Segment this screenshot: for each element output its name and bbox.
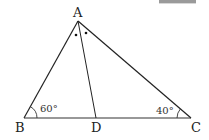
angle-arc-c xyxy=(177,109,180,118)
angle-label-b: 60° xyxy=(40,104,58,114)
vertex-label-a: A xyxy=(73,6,82,19)
vertex-label-d: D xyxy=(91,121,101,134)
angle-mark-dot-right xyxy=(85,32,88,35)
triangle-diagram xyxy=(0,0,209,140)
angle-arc-b xyxy=(30,107,37,118)
angle-mark-dot-left xyxy=(75,34,78,37)
side-ac xyxy=(78,21,191,118)
bisector-ad xyxy=(78,21,96,118)
vertex-label-b: B xyxy=(15,121,25,134)
vertex-label-c: C xyxy=(191,121,201,134)
angle-label-c: 40° xyxy=(156,106,174,116)
